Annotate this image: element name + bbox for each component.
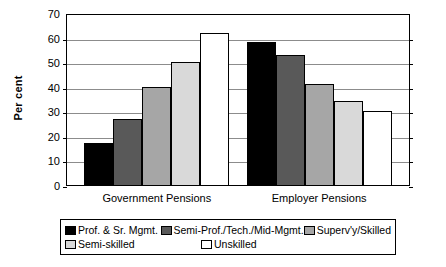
legend-label: Prof. & Sr. Mgmt. (78, 225, 158, 236)
legend-swatch-icon (304, 226, 315, 235)
bar (200, 33, 229, 185)
bar-group (247, 15, 392, 185)
bar (113, 119, 142, 185)
y-tick-mark-right (409, 187, 413, 188)
x-axis-category-labels: Government PensionsEmployer Pensions (66, 190, 410, 208)
bar (363, 111, 392, 185)
legend-label: Superv'y/Skilled (317, 225, 391, 236)
y-tick-label: 70 (48, 8, 60, 20)
legend-label: Semi-Prof./Tech./Mid-Mgmt. (174, 225, 304, 236)
legend-label: Semi-skilled (78, 239, 135, 250)
x-category-label: Government Pensions (102, 192, 211, 204)
y-tick-mark-right (409, 64, 413, 65)
y-tick-label: 0 (54, 180, 60, 192)
group-spacer (392, 15, 409, 185)
y-tick-label: 30 (48, 106, 60, 118)
plot-area (66, 14, 410, 186)
legend-label: Unskilled (214, 239, 257, 250)
chart-legend: Prof. & Sr. Mgmt.Semi-Prof./Tech./Mid-Mg… (60, 219, 396, 255)
legend-swatch-icon (65, 226, 76, 235)
legend-item[interactable]: Semi-skilled (65, 239, 201, 250)
y-tick-mark-right (409, 89, 413, 90)
y-tick-label: 40 (48, 82, 60, 94)
bar (142, 87, 171, 185)
y-tick-mark-right (409, 113, 413, 114)
bar (276, 55, 305, 185)
legend-item[interactable]: Semi-Prof./Tech./Mid-Mgmt. (161, 225, 304, 236)
group-spacer (67, 15, 84, 185)
bars-layer (67, 15, 409, 185)
x-category-label: Employer Pensions (272, 192, 367, 204)
y-tick-label: 20 (48, 131, 60, 143)
legend-item[interactable]: Prof. & Sr. Mgmt. (65, 225, 161, 236)
legend-swatch-icon (161, 226, 172, 235)
legend-item[interactable]: Superv'y/Skilled (304, 225, 391, 236)
y-tick-label: 50 (48, 57, 60, 69)
legend-row: Semi-skilledUnskilled (65, 237, 391, 251)
y-axis-title-text: Per cent (11, 75, 23, 120)
bar (305, 84, 334, 185)
y-axis-title: Per cent (2, 0, 32, 196)
bar-group (84, 15, 229, 185)
bar (247, 42, 276, 185)
legend-item[interactable]: Unskilled (201, 239, 357, 250)
y-axis-tick-labels: 010203040506070 (30, 14, 64, 186)
y-tick-mark (63, 187, 67, 188)
legend-swatch-icon (65, 240, 76, 249)
bar (84, 143, 113, 185)
y-tick-mark-right (409, 138, 413, 139)
y-tick-label: 10 (48, 155, 60, 167)
bar (171, 62, 200, 185)
bar-chart: Per cent 010203040506070 Government Pens… (0, 0, 446, 267)
bar (334, 101, 363, 185)
legend-swatch-icon (201, 240, 212, 249)
group-spacer (229, 15, 246, 185)
legend-row: Prof. & Sr. Mgmt.Semi-Prof./Tech./Mid-Mg… (65, 223, 391, 237)
y-tick-mark-right (409, 162, 413, 163)
y-tick-mark-right (409, 40, 413, 41)
y-tick-label: 60 (48, 33, 60, 45)
